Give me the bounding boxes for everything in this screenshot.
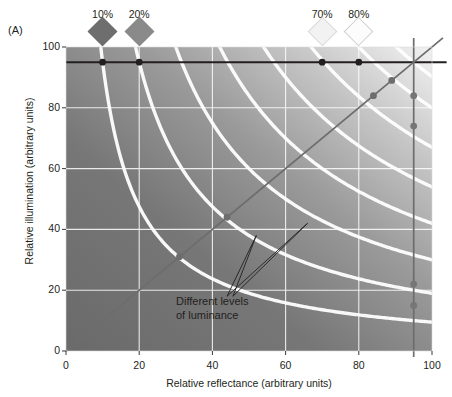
y-tick-label: 40 [34, 222, 60, 234]
x-tick-label: 20 [124, 359, 154, 371]
y-tick-label: 20 [34, 283, 60, 295]
y-tick-label: 0 [34, 344, 60, 356]
annotation-line-1: Different levels [176, 295, 249, 307]
y-tick-label: 80 [34, 101, 60, 113]
figure-panel-a: (A) 10%20%70%80% Different levels of lu [0, 0, 452, 397]
x-axis-title: Relative reflectance (arbitrary units) [66, 377, 432, 389]
x-tick-label: 40 [197, 359, 227, 371]
y-tick-label: 100 [34, 40, 60, 52]
y-tick-label: 60 [34, 162, 60, 174]
annotation-line-2: of luminance [176, 309, 238, 321]
plot-svg: Different levels of luminance [0, 0, 452, 397]
y-axis-title: Relative illumination (arbitrary units) [23, 56, 35, 306]
x-tick-label: 60 [271, 359, 301, 371]
x-tick-label: 80 [344, 359, 374, 371]
x-tick-label: 100 [417, 359, 447, 371]
x-tick-label: 0 [51, 359, 81, 371]
